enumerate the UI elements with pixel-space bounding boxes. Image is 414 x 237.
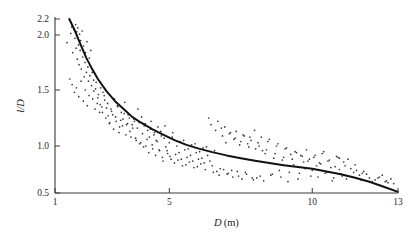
data-point: [323, 151, 325, 153]
data-point: [249, 136, 251, 138]
data-point: [127, 123, 129, 125]
data-point: [170, 158, 172, 160]
data-point: [106, 107, 108, 109]
data-point: [269, 138, 271, 140]
data-point: [93, 79, 95, 81]
data-point: [135, 140, 137, 142]
data-point: [139, 143, 141, 145]
data-point: [93, 90, 95, 92]
data-point: [100, 87, 102, 89]
data-point: [207, 155, 209, 157]
data-point: [148, 136, 150, 138]
data-point: [251, 177, 253, 179]
data-point: [86, 72, 88, 74]
data-point: [261, 136, 263, 138]
data-point: [84, 89, 86, 91]
data-point: [176, 145, 178, 147]
y-axis-tick-label: 1.0: [37, 141, 49, 151]
data-point: [363, 171, 365, 173]
data-point: [337, 156, 339, 158]
data-point: [221, 127, 223, 129]
data-point: [320, 163, 322, 165]
data-point: [152, 148, 154, 150]
data-point: [203, 162, 205, 164]
data-point: [94, 108, 96, 110]
data-point: [130, 136, 132, 138]
data-point: [259, 175, 261, 177]
data-point: [239, 144, 241, 146]
data-point: [210, 124, 212, 126]
data-point: [177, 159, 179, 161]
data-point: [303, 161, 305, 163]
data-point: [257, 142, 259, 144]
data-point: [290, 154, 292, 156]
x-axis-tick-label: 1: [53, 197, 58, 207]
data-point: [110, 108, 112, 110]
data-point: [333, 177, 335, 179]
data-point: [286, 147, 288, 149]
data-point: [122, 118, 124, 120]
data-point: [163, 137, 165, 139]
data-point: [222, 135, 224, 137]
data-point: [134, 121, 136, 123]
data-point: [92, 98, 94, 100]
data-point: [156, 141, 158, 143]
data-point: [198, 158, 200, 160]
data-point: [281, 159, 283, 161]
data-point: [339, 157, 341, 159]
data-point: [151, 144, 153, 146]
data-point: [66, 42, 68, 44]
data-point: [147, 129, 149, 131]
data-point: [112, 114, 114, 116]
data-point: [247, 143, 249, 145]
data-point: [165, 146, 167, 148]
data-point: [88, 57, 90, 59]
y-axis-tick-label: 2.2: [37, 14, 49, 24]
data-point: [277, 143, 279, 145]
data-point: [300, 155, 302, 157]
data-point: [336, 155, 338, 157]
data-point: [153, 134, 155, 136]
data-point: [280, 176, 282, 178]
data-point: [83, 45, 85, 47]
data-point: [120, 119, 122, 121]
data-point: [297, 178, 299, 180]
data-point: [78, 96, 80, 98]
data-point: [347, 158, 349, 160]
data-point: [379, 176, 381, 178]
data-point: [74, 37, 76, 39]
data-point: [99, 112, 101, 114]
data-point: [125, 134, 127, 136]
y-axis-tick-label: 0.5: [37, 188, 49, 198]
data-point: [309, 158, 311, 160]
data-point: [273, 157, 275, 159]
data-point: [206, 146, 208, 148]
data-point: [72, 52, 74, 54]
data-point: [223, 169, 225, 171]
data-point: [234, 137, 236, 139]
data-point: [96, 103, 98, 105]
data-point: [178, 152, 180, 154]
data-point: [146, 138, 148, 140]
data-point: [102, 112, 104, 114]
data-point: [188, 161, 190, 163]
data-point: [386, 180, 388, 182]
data-point: [319, 162, 321, 164]
data-point: [339, 169, 341, 171]
data-point: [393, 183, 395, 185]
data-point: [141, 116, 143, 118]
data-point: [271, 173, 273, 175]
data-point: [79, 33, 81, 35]
data-point: [70, 33, 72, 35]
data-point: [330, 167, 332, 169]
data-point: [190, 155, 192, 157]
data-point: [331, 180, 333, 182]
data-point: [155, 155, 157, 157]
data-point: [219, 168, 221, 170]
data-point: [353, 171, 355, 173]
data-point: [215, 129, 217, 131]
data-point: [172, 132, 174, 134]
data-point: [296, 152, 298, 154]
data-point: [216, 171, 218, 173]
data-point: [194, 143, 196, 145]
